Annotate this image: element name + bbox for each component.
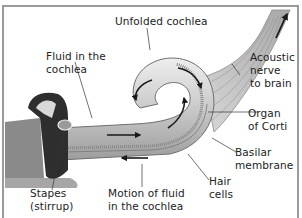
label-acoustic-nerve: Acoustic nerve to brain — [250, 51, 295, 90]
label-unfolded-cochlea: Unfolded cochlea — [115, 15, 208, 28]
label-basilar-membrane: Basilar membrane — [235, 146, 293, 172]
stapes-footplate — [58, 120, 72, 130]
label-hair-cells: Hair cells — [209, 175, 233, 201]
label-stapes: Stapes (stirrup) — [30, 187, 73, 213]
label-fluid-in-cochlea: Fluid in the cochlea — [46, 50, 106, 76]
label-motion-of-fluid: Motion of fluid in the cochlea — [108, 187, 185, 213]
label-organ-of-corti: Organ of Corti — [248, 107, 287, 133]
stapes-region — [5, 93, 78, 188]
